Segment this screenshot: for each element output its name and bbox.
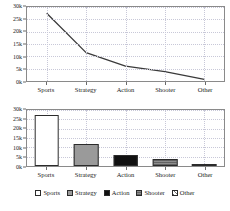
legend-label: Sports <box>43 189 60 196</box>
legend-label: Action <box>112 189 130 196</box>
legend-swatch-action-icon <box>104 190 110 196</box>
legend-item-other[interactable]: Other <box>172 189 195 196</box>
legend-swatch-shooter-icon <box>136 190 142 196</box>
x-axis-tick-label-action: Action <box>117 86 135 93</box>
y-axis-tick-label: 10k <box>13 145 22 151</box>
y-axis-tick-mark <box>23 128 26 129</box>
line-chart-plot-area <box>26 6 225 82</box>
legend-label: Strategy <box>75 189 97 196</box>
gridline-vertical <box>165 7 166 81</box>
figure-container: 0k5k10k15k20k25k30k SportsStrategyAction… <box>0 0 230 211</box>
y-axis-tick-label: 25k <box>13 116 22 122</box>
legend-label: Other <box>180 189 195 196</box>
line-chart-panel: 0k5k10k15k20k25k30k SportsStrategyAction… <box>0 0 230 103</box>
x-axis-tick-mark <box>205 82 206 85</box>
legend-item-strategy[interactable]: Strategy <box>67 189 97 196</box>
y-axis-tick-label: 15k <box>13 41 22 47</box>
gridline-vertical <box>204 110 205 166</box>
x-axis-tick-label-sports: Sports <box>38 86 55 93</box>
x-axis-tick-mark <box>86 82 87 85</box>
y-axis-tick-label: 25k <box>13 16 22 22</box>
y-axis-tick-mark <box>23 18 26 19</box>
gridline-vertical <box>86 7 87 81</box>
bar-chart-plot-area <box>26 109 225 167</box>
y-axis-tick-mark <box>23 118 26 119</box>
bar-shooter <box>153 159 178 166</box>
y-axis-tick-label: 0k <box>16 164 22 170</box>
bar-chart-plot-wrap: 0k5k10k15k20k25k30k SportsStrategyAction… <box>26 109 225 167</box>
legend-item-action[interactable]: Action <box>104 189 130 196</box>
line-chart-plot-wrap: 0k5k10k15k20k25k30k SportsStrategyAction… <box>26 6 225 82</box>
x-axis-tick-label-strategy: Strategy <box>75 86 97 93</box>
legend-item-sports[interactable]: Sports <box>35 189 60 196</box>
bar-strategy <box>74 144 99 166</box>
bar-chart-panel: 0k5k10k15k20k25k30k SportsStrategyAction… <box>0 103 230 188</box>
x-axis-tick-label-shooter: Shooter <box>155 86 175 93</box>
y-axis-tick-label: 5k <box>16 66 22 72</box>
x-axis-tick-label-shooter: Shooter <box>155 171 175 178</box>
x-axis-tick-label-other: Other <box>198 86 213 93</box>
legend-swatch-other-icon <box>172 190 178 196</box>
x-axis-tick-mark <box>46 167 47 170</box>
y-axis-tick-label: 20k <box>13 28 22 34</box>
y-axis-tick-label: 0k <box>16 79 22 85</box>
bar-chart-legend: SportsStrategyActionShooterOther <box>0 186 230 199</box>
gridline-vertical <box>126 7 127 81</box>
y-axis-tick-mark <box>23 147 26 148</box>
y-axis-tick-mark <box>23 138 26 139</box>
y-axis-tick-mark <box>23 31 26 32</box>
y-axis-tick-label: 30k <box>13 3 22 9</box>
x-axis-tick-label-other: Other <box>198 171 213 178</box>
gridline-vertical <box>47 7 48 81</box>
x-axis-tick-mark <box>205 167 206 170</box>
y-axis-tick-label: 5k <box>16 154 22 160</box>
x-axis-tick-mark <box>126 82 127 85</box>
x-axis-tick-label-strategy: Strategy <box>75 171 97 178</box>
x-axis-tick-label-action: Action <box>117 171 135 178</box>
y-axis-tick-mark <box>23 157 26 158</box>
y-axis-tick-label: 20k <box>13 125 22 131</box>
y-axis-tick-mark <box>23 69 26 70</box>
legend-label: Shooter <box>144 189 164 196</box>
gridline-vertical <box>204 7 205 81</box>
legend-swatch-sports-icon <box>35 190 41 196</box>
y-axis-tick-mark <box>23 82 26 83</box>
footer-strip <box>0 199 230 211</box>
x-axis-tick-mark <box>126 167 127 170</box>
legend-item-shooter[interactable]: Shooter <box>136 189 164 196</box>
y-axis-tick-label: 15k <box>13 135 22 141</box>
y-axis-tick-mark <box>23 6 26 7</box>
y-axis-tick-mark <box>23 109 26 110</box>
bar-sports <box>34 115 59 166</box>
y-axis-tick-mark <box>23 56 26 57</box>
x-axis-tick-mark <box>46 82 47 85</box>
y-axis-tick-label: 10k <box>13 54 22 60</box>
x-axis-tick-mark <box>165 82 166 85</box>
x-axis-tick-label-sports: Sports <box>38 171 55 178</box>
legend-swatch-strategy-icon <box>67 190 73 196</box>
y-axis-tick-label: 30k <box>13 106 22 112</box>
y-axis-tick-mark <box>23 167 26 168</box>
x-axis-tick-mark <box>165 167 166 170</box>
bar-action <box>113 155 138 166</box>
y-axis-tick-mark <box>23 44 26 45</box>
bar-other <box>192 164 217 166</box>
x-axis-tick-mark <box>86 167 87 170</box>
